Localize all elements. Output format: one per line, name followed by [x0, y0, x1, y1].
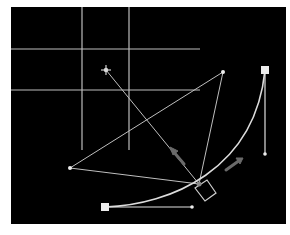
start-anchor-square[interactable] — [101, 203, 109, 211]
vector-canvas[interactable] — [0, 0, 290, 235]
canvas-background — [11, 7, 286, 224]
top-point[interactable] — [221, 70, 225, 74]
vector-editor-stage — [0, 0, 290, 235]
end-anchor-square[interactable] — [261, 66, 269, 74]
pivot-point[interactable] — [197, 182, 202, 187]
start-handle-point[interactable] — [190, 205, 194, 209]
left-point[interactable] — [68, 166, 72, 170]
end-handle-point[interactable] — [263, 152, 267, 156]
